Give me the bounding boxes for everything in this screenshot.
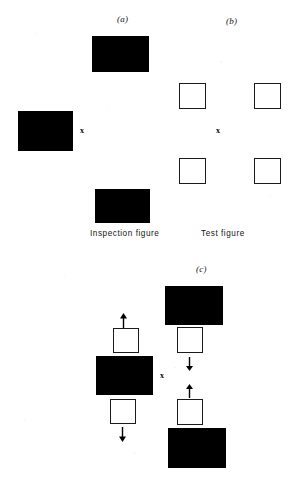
panel-b-square-bottom-right [254,158,281,184]
panel-c-left-square-upper [113,328,139,353]
panel-b-square-bottom-left [179,158,206,184]
arrow-up-icon-left-top [119,313,128,328]
panel-a-left-black-rectangle [18,111,73,151]
panel-b-square-top-right [254,83,281,109]
panel-c-fixation-mark: x [160,372,164,380]
page-grain-overlay [0,0,307,477]
panel-c-left-square-lower [110,399,136,424]
panel-b-square-top-left [179,83,206,109]
caption-inspection-figure: Inspection figure [90,229,159,238]
arrow-up-icon-right-bottom [185,384,194,398]
panel-c-right-square-upper [177,327,203,353]
panel-label-b: (b) [226,16,237,26]
panel-label-c: (c) [196,264,207,274]
panel-c-right-black-rectangle-lower [168,428,226,468]
arrow-down-icon-left-bottom [118,427,127,442]
panel-a-fixation-mark: x [80,127,84,135]
panel-c-right-black-rectangle-upper [165,286,223,325]
caption-test-figure: Test figure [201,229,245,238]
panel-c-left-black-rectangle [96,356,153,395]
panel-a-top-black-rectangle [92,36,149,72]
panel-c-right-square-lower [177,399,203,425]
panel-a-bottom-black-rectangle [95,189,150,223]
panel-label-a: (a) [117,14,128,24]
arrow-down-icon-right-top [185,357,194,371]
panel-b-fixation-mark: x [216,127,220,135]
